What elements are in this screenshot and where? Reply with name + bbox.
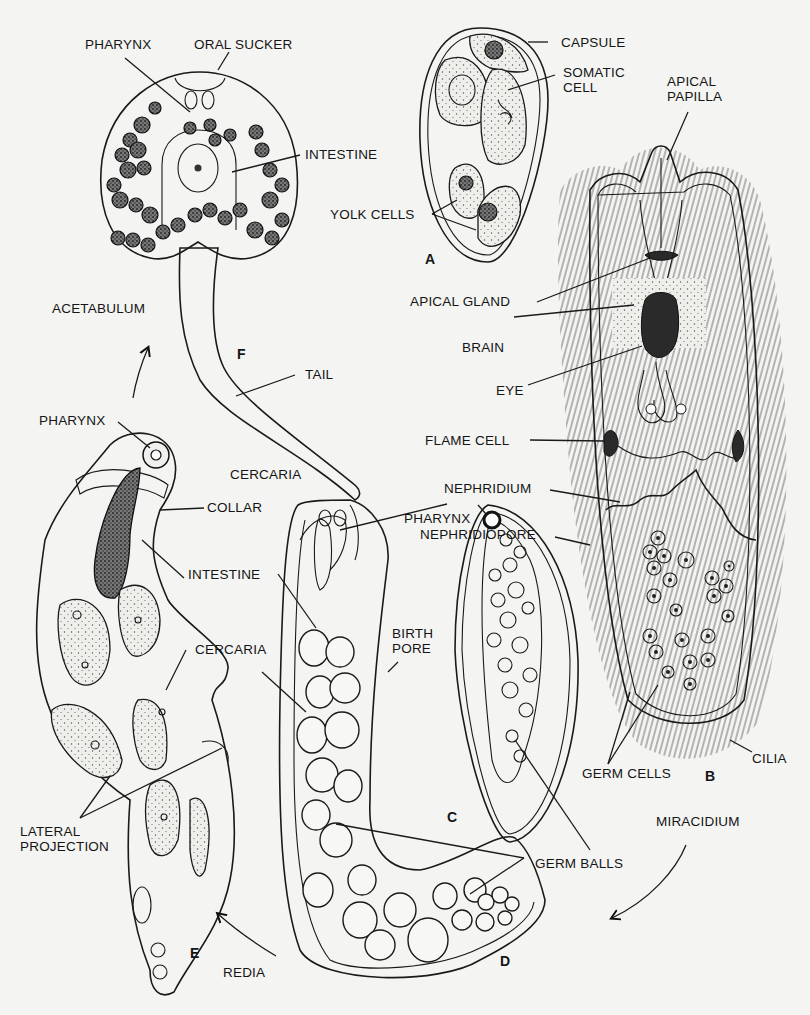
panel-letter-a: A (425, 252, 435, 266)
panel-letter-f: F (237, 347, 246, 361)
panel-c-sporocyst (455, 505, 590, 850)
label-cercaria-stage: CERCARIA (230, 468, 301, 482)
panel-letter-e: E (190, 946, 199, 960)
label-b-cilia: CILIA (752, 752, 787, 766)
label-b-flame-cell: FLAME CELL (425, 434, 510, 448)
label-e-pharynx: PHARYNX (39, 414, 105, 428)
label-b-apical-gland: APICAL GLAND (410, 295, 510, 309)
label-d-cercaria: CERCARIA (195, 643, 266, 657)
panel-letter-d: D (500, 954, 510, 968)
label-redia-stage: REDIA (223, 966, 265, 980)
label-b-nephridiopore: NEPHRIDIOPORE (420, 528, 536, 542)
label-germ-balls: GERM BALLS (535, 857, 623, 871)
label-a-yolk-cells: YOLK CELLS (330, 208, 415, 222)
label-a-somatic-cell: SOMATIC CELL (563, 66, 625, 96)
label-b-eye: EYE (496, 384, 524, 398)
label-f-tail: TAIL (305, 368, 333, 382)
label-f-acetabulum: ACETABULUM (52, 302, 145, 316)
label-b-nephridium: NEPHRIDIUM (444, 482, 532, 496)
label-e-collar: COLLAR (207, 501, 262, 515)
label-a-capsule: CAPSULE (561, 36, 625, 50)
panel-letter-b: B (705, 769, 715, 783)
panel-b-miracidium (514, 112, 786, 918)
label-b-germ-cells: GERM CELLS (582, 767, 671, 781)
label-e-lateral-projection: LATERAL PROJECTION (20, 825, 109, 855)
label-miracidium-stage: MIRACIDIUM (656, 815, 740, 829)
panel-letter-c: C (447, 810, 457, 824)
label-b-apical-papilla: APICAL PAPILLA (667, 75, 722, 105)
label-d-birth-pore: BIRTH PORE (392, 627, 433, 657)
label-d-intestine: INTESTINE (188, 568, 260, 582)
label-f-oral-sucker: ORAL SUCKER (194, 38, 292, 52)
label-c-pharynx: PHARYNX (404, 512, 470, 526)
label-f-pharynx: PHARYNX (85, 38, 151, 52)
label-f-intestine: INTESTINE (305, 148, 377, 162)
panel-d-germ-redia (262, 500, 545, 978)
trematode-lifecycle-diagram: PHARYNX ORAL SUCKER INTESTINE ACETABULUM… (0, 0, 810, 1015)
panel-a-egg (420, 28, 555, 262)
diagram-drawing (0, 0, 810, 1015)
label-b-brain: BRAIN (462, 341, 504, 355)
